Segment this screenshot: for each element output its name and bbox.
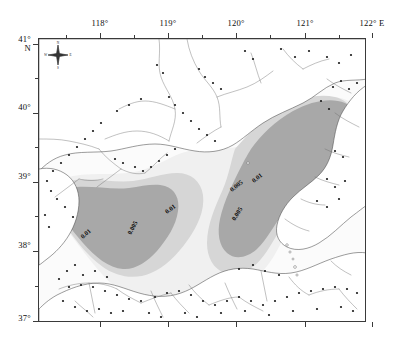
tick-top-122 bbox=[372, 33, 373, 38]
lon-tick-label-120: 120° bbox=[227, 18, 244, 28]
compass-label-e: E bbox=[70, 53, 72, 57]
island-dot bbox=[247, 162, 249, 164]
tick-bottom-118 bbox=[100, 322, 101, 327]
tick-bottom-119 bbox=[168, 322, 169, 327]
map-svg: 0.01 0.005 0.01 0.005 0.01 0.005 bbox=[39, 39, 365, 321]
compass-east-needle bbox=[58, 54, 68, 57]
compass-label-w: W bbox=[44, 53, 48, 57]
lon-tick-label-118: 118° bbox=[92, 18, 109, 28]
lat-tick-label-41: 41° N bbox=[4, 35, 31, 53]
compass-label-s: S bbox=[57, 66, 59, 69]
lat-tick-label-40: 40° bbox=[4, 102, 31, 112]
compass-west-needle bbox=[48, 54, 58, 57]
tick-bottom-120 bbox=[236, 322, 237, 327]
lon-tick-label-121: 121° bbox=[296, 18, 313, 28]
tick-bottom-121 bbox=[305, 322, 306, 327]
lat-tick-label-39: 39° bbox=[4, 171, 31, 181]
lat-north-letter: N bbox=[4, 44, 31, 53]
island-dot bbox=[292, 258, 294, 260]
lon-tick-label-122: 122° E bbox=[360, 18, 385, 28]
island-dot bbox=[286, 244, 289, 247]
island-dot bbox=[289, 251, 291, 253]
compass-north-needle bbox=[57, 45, 60, 55]
map-canvas: 0.01 0.005 0.01 0.005 0.01 0.005 bbox=[39, 39, 365, 321]
tick-bottom-122 bbox=[372, 322, 373, 327]
map-plot-frame: 0.01 0.005 0.01 0.005 0.01 0.005 bbox=[38, 38, 366, 322]
compass-rose-icon: N S E W bbox=[44, 41, 72, 69]
lat-tick-label-37: 37° bbox=[4, 313, 31, 323]
lat-tick-label-38: 38° bbox=[4, 240, 31, 250]
compass-south-needle bbox=[57, 55, 60, 65]
compass-label-n: N bbox=[57, 41, 60, 45]
figure-root: 118° 119° 120° 121° 122° E 41° N 40° 39°… bbox=[0, 0, 404, 350]
island-dot bbox=[294, 266, 297, 269]
lon-tick-label-119: 119° bbox=[160, 18, 177, 28]
island-dot bbox=[296, 274, 298, 276]
